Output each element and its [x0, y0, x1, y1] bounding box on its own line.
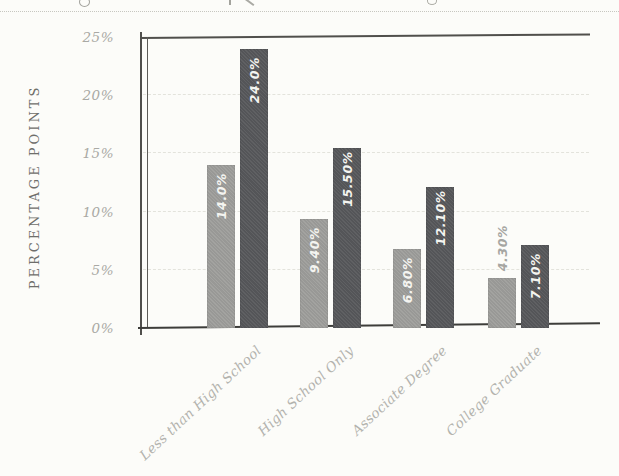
bar-value-label: 14.0% — [214, 173, 229, 219]
bar-group-2: 9.40%15.50% — [300, 37, 361, 328]
bar-value-label: 12.10% — [433, 190, 448, 246]
y-tick-label-10: 10% — [38, 203, 114, 221]
bar-dark-gray-bars-category-4: 7.10% — [521, 245, 549, 328]
bar-value-label: 15.50% — [340, 151, 355, 207]
bar-value-label: 7.10% — [528, 253, 543, 299]
y-axis-title: PERCENTAGE POINTS — [27, 85, 42, 290]
x-tick-label-3: Associate Degree — [348, 342, 450, 438]
scanned-book-page: PERCENTAGE POINTS 14.0%24.0%9.40%15.50%6… — [0, 0, 619, 476]
bar-dark-gray-bars-category-1: 24.0% — [240, 49, 268, 328]
bar-value-label: 4.30% — [495, 225, 510, 271]
bar-light-gray-bars-category-2: 9.40% — [300, 219, 328, 328]
bar-chart: PERCENTAGE POINTS 14.0%24.0%9.40%15.50%6… — [0, 0, 619, 476]
y-tick-label-20: 20% — [38, 86, 114, 104]
bar-group-3: 6.80%12.10% — [393, 37, 454, 328]
bar-light-gray-bars-category-3: 6.80% — [393, 249, 421, 328]
bar-dark-gray-bars-category-2: 15.50% — [333, 148, 361, 328]
bar-dark-gray-bars-category-3: 12.10% — [426, 187, 454, 328]
y-tick-label-25: 25% — [38, 28, 114, 46]
bar-value-label: 6.80% — [400, 257, 415, 303]
bar-value-label: 24.0% — [247, 56, 262, 102]
y-tick-label-15: 15% — [38, 144, 114, 162]
x-tick-label-2: High School Only — [255, 342, 357, 439]
y-tick-label-5: 5% — [38, 261, 114, 279]
bar-light-gray-bars-category-1: 14.0% — [207, 165, 235, 328]
x-tick-label-4: College Graduate — [443, 342, 545, 439]
bar-group-4: 4.30%7.10% — [488, 37, 549, 328]
y-tick-label-0: 0% — [38, 319, 114, 337]
bar-group-1: 14.0%24.0% — [207, 37, 268, 328]
x-tick-label-1: Less than High School — [136, 342, 264, 463]
y-axis-line-outer — [140, 32, 142, 335]
plot-area: 14.0%24.0%9.40%15.50%6.80%12.10%4.30%7.1… — [140, 37, 592, 328]
y-axis-line-inner — [147, 37, 148, 328]
bar-value-label: 9.40% — [307, 226, 322, 272]
bar-light-gray-bars-category-4: 4.30% — [488, 278, 516, 328]
